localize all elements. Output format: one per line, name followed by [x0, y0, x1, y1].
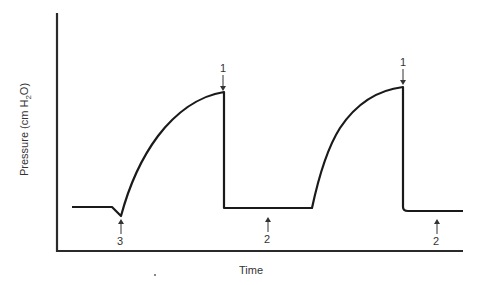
annotation-2-first: 2	[264, 217, 271, 245]
annotation-label: 2	[264, 233, 270, 245]
annotation-label: 1	[400, 56, 406, 68]
arrowhead-icon	[220, 86, 226, 91]
y-axis-label: Pressure (cm H2O)	[18, 83, 33, 176]
arrowhead-icon	[118, 219, 124, 224]
annotation-1-second: 1	[400, 56, 406, 85]
speck-artifact	[154, 274, 156, 276]
annotation-label: 3	[117, 235, 123, 247]
annotation-1-first: 1	[220, 62, 226, 91]
arrowhead-icon	[400, 80, 406, 85]
arrowhead-icon	[434, 219, 440, 224]
annotation-2-second: 2	[433, 219, 440, 247]
y-axis-label-end: O)	[18, 83, 30, 95]
annotation-label: 1	[220, 62, 226, 74]
annotation-label: 2	[433, 235, 439, 247]
annotation-3: 3	[117, 219, 124, 247]
y-axis-label-main: Pressure (cm H	[18, 100, 30, 176]
pressure-time-diagram: 1 3 2 1 2 Time Pressure (cm H2O)	[0, 0, 487, 285]
x-axis-label: Time	[239, 264, 263, 276]
arrowhead-icon	[265, 217, 271, 222]
pressure-trace	[72, 87, 463, 216]
